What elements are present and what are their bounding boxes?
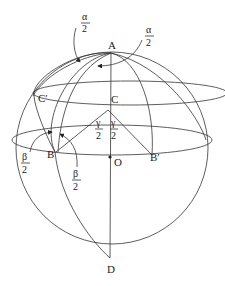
svg-text:γ: γ <box>110 117 116 128</box>
meridian-b-d <box>51 53 111 258</box>
label-o: O <box>114 156 122 168</box>
svg-text:2: 2 <box>96 130 101 141</box>
svg-text:β: β <box>73 168 78 179</box>
fraction-alpha-half-left: α 2 <box>81 11 90 34</box>
svg-text:2: 2 <box>146 37 151 48</box>
svg-text:2: 2 <box>73 181 78 192</box>
svg-text:α: α <box>146 24 152 35</box>
svg-text:α: α <box>82 11 88 22</box>
meridian-left <box>58 53 111 152</box>
fraction-alpha-half-right: α 2 <box>145 24 154 48</box>
svg-text:β: β <box>22 151 27 162</box>
fraction-beta-half-left: β 2 <box>21 151 30 175</box>
center-point-o <box>108 155 111 158</box>
fraction-gamma-half-left: γ 2 <box>95 117 103 141</box>
fraction-gamma-half-right: γ 2 <box>110 117 118 141</box>
label-b: B <box>47 148 54 160</box>
label-b-prime: B′ <box>150 151 160 163</box>
svg-text:2: 2 <box>82 23 87 34</box>
sphere-diagram: A C′ C B B′ O D α 2 α 2 γ 2 γ 2 β 2 β 2 <box>0 0 225 286</box>
svg-text:2: 2 <box>111 130 116 141</box>
label-d: D <box>107 263 115 275</box>
label-c: C <box>111 93 118 105</box>
svg-text:2: 2 <box>22 164 27 175</box>
label-a: A <box>108 39 116 51</box>
svg-text:γ: γ <box>95 117 101 128</box>
label-c-prime: C′ <box>38 92 48 104</box>
alpha-arrow-left <box>74 28 80 62</box>
fraction-beta-half-right: β 2 <box>72 168 81 192</box>
beta-arrow-right <box>60 134 77 167</box>
